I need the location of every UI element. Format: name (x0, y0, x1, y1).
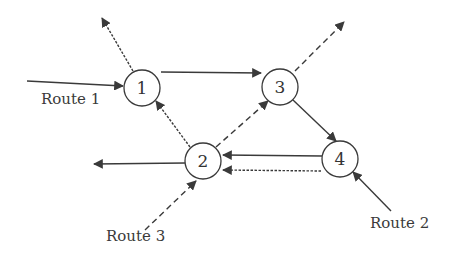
edge-2-to-3 (216, 101, 268, 147)
route2-input-edge (353, 172, 391, 211)
route-diagram: 1 2 3 4 Route 1 Route 2 Route 3 (0, 0, 459, 254)
route2-label: Route 2 (370, 214, 429, 232)
route3-label: Route 3 (106, 227, 165, 245)
route1-output-edge-left (94, 163, 185, 164)
route3-output-edge-top-right (295, 22, 344, 71)
node-4: 4 (322, 141, 358, 177)
route3-input-edge (145, 181, 196, 230)
edge-2-to-1 (156, 101, 190, 147)
node-2: 2 (185, 143, 221, 179)
node-1-label: 1 (137, 78, 148, 98)
route1-input-edge (27, 81, 123, 86)
node-3-label: 3 (275, 77, 286, 97)
route2-output-edge-top-left (102, 18, 133, 71)
edge-4-to-2-dashed (223, 170, 321, 171)
node-3: 3 (262, 69, 298, 105)
route1-label: Route 1 (41, 90, 100, 108)
node-1: 1 (124, 70, 160, 106)
edge-1-to-3 (161, 72, 261, 73)
edge-4-to-2-solid (223, 155, 322, 156)
node-4-label: 4 (335, 149, 346, 169)
node-2-label: 2 (198, 151, 209, 171)
edge-3-to-4 (293, 100, 336, 141)
